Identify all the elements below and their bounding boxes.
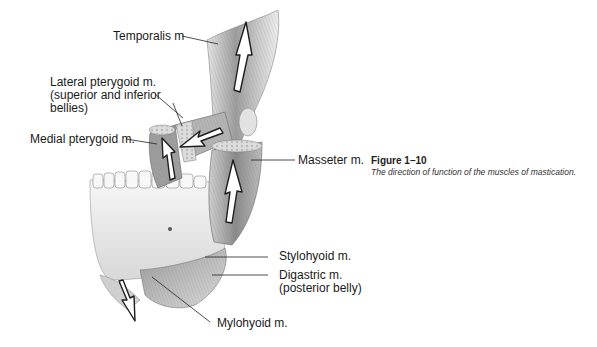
label-stylohyoid: Stylohyoid m. — [279, 250, 351, 263]
label-lateral-pterygoid-line3: bellies) — [50, 102, 161, 115]
label-lateral-pterygoid: Lateral pterygoid m. (superior and infer… — [50, 76, 161, 115]
label-digastric-line2: (posterior belly) — [279, 282, 362, 295]
mental-foramen — [168, 227, 172, 231]
figure-caption-text: The direction of function of the muscles… — [371, 167, 597, 178]
label-digastric: Digastric m. (posterior belly) — [279, 269, 362, 295]
figure-stage: Temporalis m Lateral pterygoid m. (super… — [0, 0, 597, 347]
figure-number: Figure 1–10 — [371, 155, 597, 167]
label-mylohyoid: Mylohyoid m. — [217, 317, 288, 330]
condyle-process — [239, 108, 257, 136]
label-temporalis: Temporalis m — [113, 30, 184, 43]
label-medial-pterygoid: Medial pterygoid m. — [30, 133, 135, 146]
lower-teeth — [93, 171, 206, 188]
figure-caption: Figure 1–10 The direction of function of… — [371, 155, 597, 178]
label-masseter: Masseter m. — [298, 154, 364, 167]
